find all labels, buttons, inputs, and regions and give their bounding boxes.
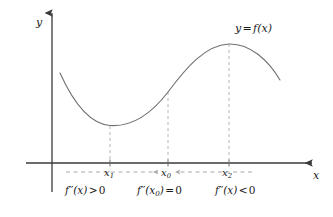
curve-equation-label: y=f(x) bbox=[235, 23, 272, 34]
equals-sign: = bbox=[241, 22, 253, 35]
y-axis-label: y bbox=[36, 17, 42, 28]
x-axis-label: x bbox=[313, 170, 319, 181]
tick-label-x0: x0 bbox=[161, 168, 171, 180]
note-inflection: f′′(x0)=0 bbox=[137, 185, 182, 197]
note-value: 0 bbox=[249, 184, 256, 196]
less-than-sign: < bbox=[237, 184, 248, 196]
greater-than-sign: > bbox=[87, 184, 98, 196]
note-value: 0 bbox=[99, 184, 106, 196]
tick-label-x1: x1 bbox=[104, 168, 114, 180]
concavity-figure: y x y=f(x) x1 x0 x2 f′′(x)>0 f′′(x0)=0 f… bbox=[0, 0, 333, 217]
tick-label-x2: x2 bbox=[222, 168, 232, 180]
equals-sign: = bbox=[164, 184, 175, 196]
note-concave-up: f′′(x)>0 bbox=[65, 185, 105, 196]
note-concave-down: f′′(x)<0 bbox=[215, 185, 255, 196]
note-value: 0 bbox=[175, 184, 182, 196]
function-curve bbox=[60, 44, 280, 126]
